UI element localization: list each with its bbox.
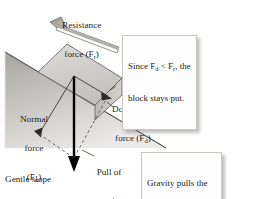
label-resistance-suffix: ) [96, 49, 99, 59]
label-resistance-prefix: force (F [64, 49, 93, 59]
callout-bottom-line1: Gravity pulls the [147, 178, 216, 189]
label-resistance-force: Resistance force (Fr) [62, 2, 101, 79]
callout-top-prefix: Since F [128, 61, 155, 71]
callout-gravity-explanation: Gravity pulls the block toward the cente… [141, 152, 222, 199]
callout-top-mid: < F [158, 61, 173, 71]
label-downslope-suffix: ) [148, 133, 151, 143]
label-pull-line1: Pull of [96, 168, 122, 178]
diagram-canvas: Resistance force (Fr) Downslope force (F… [0, 0, 253, 199]
callout-force-comparison: Since Fd < Fr, the block stays put. [122, 35, 197, 130]
label-resistance-line1: Resistance [62, 21, 101, 31]
callout-top-line1: Since Fd < Fr, the [128, 61, 191, 72]
label-normal-line1: Normal [6, 115, 62, 125]
label-gentle-slope: Gentle slope [5, 175, 51, 185]
callout-top-suffix: , the [175, 61, 191, 71]
label-normal-line2: force [6, 144, 62, 154]
label-resistance-line2: force (Fr) [62, 50, 101, 60]
callout-top-line2: block stays put. [128, 93, 191, 104]
label-downslope-line2: force (Fd) [112, 134, 154, 144]
label-pull-of-gravity: Pull of gravity [96, 149, 122, 199]
label-pull-line2: gravity [96, 197, 122, 199]
label-downslope-prefix: force (F [115, 133, 144, 143]
